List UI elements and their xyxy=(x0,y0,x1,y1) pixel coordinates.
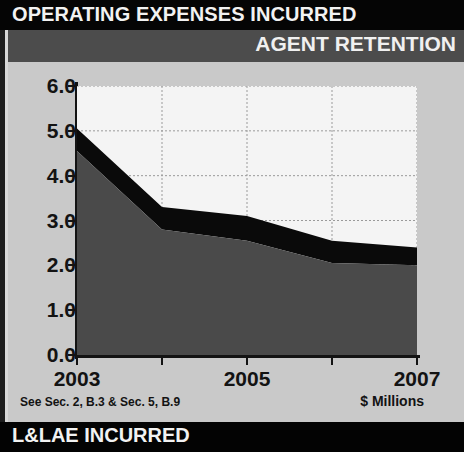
source-note: See Sec. 2, B.3 & Sec. 5, B.9 xyxy=(20,395,180,409)
units-note: $ Millions xyxy=(360,393,424,409)
x-tick-mark xyxy=(331,355,333,365)
chart-screenshot: OPERATING EXPENSES INCURRED AGENT RETENT… xyxy=(0,0,464,452)
x-tick-mark xyxy=(76,355,78,365)
y-tick-mark xyxy=(68,220,77,222)
stacked-area-svg xyxy=(77,86,417,355)
subheader-band: AGENT RETENTION xyxy=(0,30,464,62)
y-tick-mark xyxy=(68,175,77,177)
x-tick-mark xyxy=(246,355,248,365)
chart-panel: 0.01.02.03.04.05.06.0 See Sec. 2, B.3 & … xyxy=(8,62,464,422)
page-title: OPERATING EXPENSES INCURRED xyxy=(12,3,357,26)
x-tick-mark xyxy=(416,355,418,365)
bottom-bar: L&LAE INCURRED xyxy=(0,422,464,452)
y-tick-mark xyxy=(68,264,77,266)
plot-area xyxy=(77,86,417,355)
x-tick-label: 2007 xyxy=(394,367,441,391)
x-tick-label: 2005 xyxy=(224,367,271,391)
title-bar: OPERATING EXPENSES INCURRED xyxy=(0,0,464,30)
y-tick-mark xyxy=(68,309,77,311)
y-tick-mark xyxy=(68,85,77,87)
chart-subtitle: AGENT RETENTION xyxy=(255,32,456,56)
bottom-title: L&LAE INCURRED xyxy=(12,424,190,447)
y-tick-mark xyxy=(68,130,77,132)
x-tick-mark xyxy=(161,355,163,365)
x-tick-label: 2003 xyxy=(54,367,101,391)
